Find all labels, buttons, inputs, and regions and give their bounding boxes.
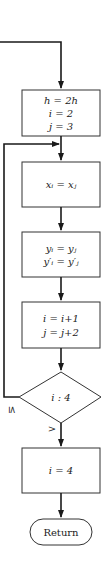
assign-y-box: yᵢ = yⱼ y′ᵢ = y′ⱼ — [22, 232, 100, 277]
loop-back-label: ≤ — [7, 406, 18, 414]
arrowhead-icon — [58, 293, 64, 301]
increment-box: i = i+1 j = j+2 — [22, 302, 100, 348]
flowchart: h = 2h i = 2 j = 3 xᵢ = xⱼ yᵢ = yⱼ y′ᵢ =… — [0, 0, 108, 574]
terminal-label: Return — [43, 527, 79, 538]
arrowhead-icon — [58, 223, 64, 231]
connector-set-i-to-terminal — [58, 493, 64, 518]
assign-x-box: xᵢ = xⱼ — [22, 162, 100, 207]
connector-increment-to-decision — [58, 348, 64, 371]
arrowhead-icon — [52, 141, 60, 147]
connector-decision-to-set-i — [58, 423, 64, 447]
init-line-3: j = 3 — [47, 121, 73, 132]
arrowhead-icon — [58, 81, 64, 89]
arrowhead-icon — [58, 510, 64, 518]
decision-diamond: i : 4 — [19, 372, 101, 423]
increment-line-2: j = j+2 — [41, 327, 79, 338]
incoming-connector — [0, 42, 64, 89]
decision-label: i : 4 — [51, 392, 70, 403]
assign-x-line-1: xᵢ = xⱼ — [46, 179, 77, 190]
set-i-line-1: i = 4 — [49, 465, 73, 476]
set-i-box: i = 4 — [22, 448, 100, 493]
init-line-2: i = 2 — [49, 108, 73, 119]
increment-line-1: i = i+1 — [43, 313, 79, 324]
connector-init-to-assign-x — [58, 136, 64, 161]
assign-y-line-2: y′ᵢ = y′ⱼ — [42, 256, 79, 267]
connector-assign-y-to-increment — [58, 277, 64, 301]
connector-assign-x-to-assign-y — [58, 207, 64, 231]
arrowhead-icon — [58, 439, 64, 447]
init-box: h = 2h i = 2 j = 3 — [22, 90, 100, 136]
arrowhead-icon — [58, 363, 64, 371]
assign-y-line-1: yᵢ = yⱼ — [45, 243, 77, 254]
return-terminal: Return — [30, 519, 92, 545]
init-line-1: h = 2h — [44, 95, 78, 106]
arrowhead-icon — [58, 153, 64, 161]
exit-label: > — [48, 423, 56, 434]
